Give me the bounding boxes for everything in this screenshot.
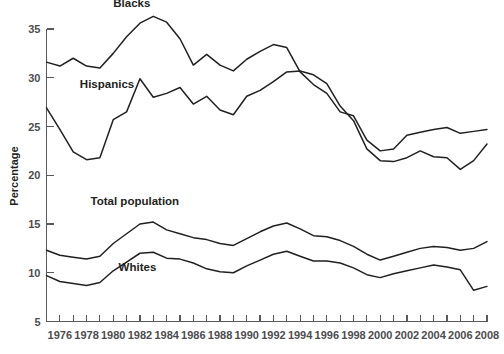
- x-tick-label-1990: 1990: [234, 329, 258, 341]
- x-tick-label-1986: 1986: [181, 329, 205, 341]
- x-tick-label-1984: 1984: [154, 329, 179, 341]
- x-tick-label-1994: 1994: [288, 329, 313, 341]
- x-tick-label-1980: 1980: [101, 329, 125, 341]
- y-tick-label-35: 35: [28, 23, 40, 35]
- x-tick-label-2004: 2004: [421, 329, 446, 341]
- y-tick-label-15: 15: [28, 218, 40, 230]
- y-tick-label-25: 25: [28, 121, 40, 133]
- y-tick-label-30: 30: [28, 72, 40, 84]
- x-tick-label-2002: 2002: [395, 329, 419, 341]
- y-tick-label-20: 20: [28, 169, 40, 181]
- x-tick-label-1978: 1978: [74, 329, 98, 341]
- x-tick-label-2006: 2006: [448, 329, 472, 341]
- y-tick-label-5: 5: [34, 316, 40, 328]
- x-tick-label-1982: 1982: [128, 329, 152, 341]
- series-label-total-population: Total population: [91, 195, 180, 207]
- x-tick-label-1976: 1976: [48, 329, 72, 341]
- x-tick-label-1992: 1992: [261, 329, 285, 341]
- y-tick-label-10: 10: [28, 267, 40, 279]
- series-label-whites: Whites: [119, 261, 157, 273]
- y-axis-title: Percentage: [8, 146, 20, 205]
- chart-container: 5101520253035 Percentage 197619781980198…: [0, 0, 504, 354]
- series-label-blacks: Blacks: [113, 0, 150, 9]
- chart-background: [0, 0, 504, 354]
- x-axis-tick-labels: 1976197819801982198419861988199019921994…: [48, 329, 500, 341]
- poverty-rate-line-chart: 5101520253035 Percentage 197619781980198…: [0, 0, 504, 354]
- series-label-hispanics: Hispanics: [80, 78, 134, 90]
- x-tick-label-2008: 2008: [475, 329, 499, 341]
- x-tick-label-1996: 1996: [315, 329, 339, 341]
- x-tick-label-2000: 2000: [368, 329, 392, 341]
- x-tick-label-1988: 1988: [208, 329, 232, 341]
- x-tick-label-1998: 1998: [341, 329, 365, 341]
